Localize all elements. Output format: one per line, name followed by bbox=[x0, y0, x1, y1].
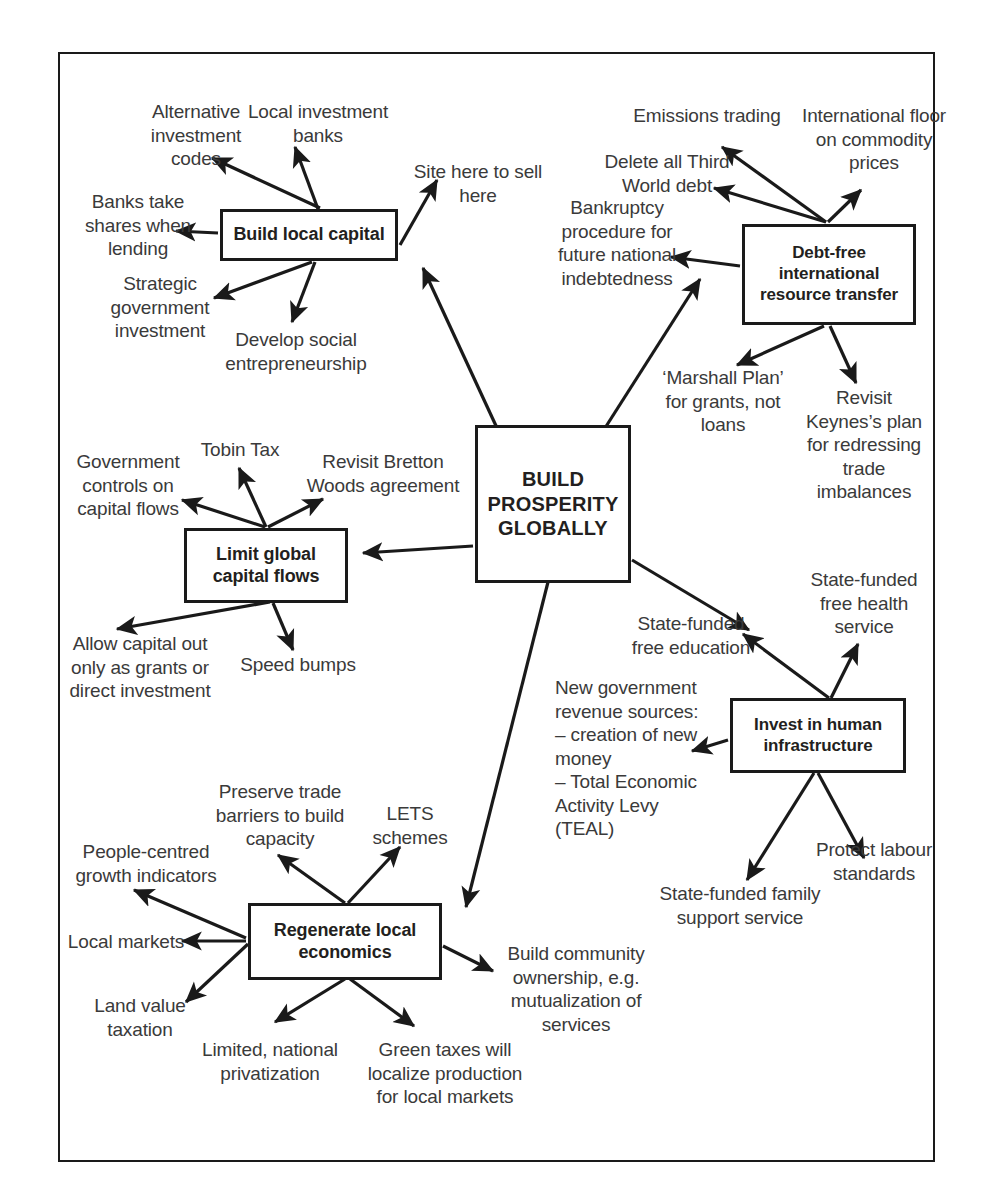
node-build-local-capital[interactable]: Build local capital bbox=[220, 209, 398, 261]
leaf-state-funded-free-education: State-funded free education bbox=[617, 612, 765, 659]
node-invest-in-human-infrastructure[interactable]: Invest in human infrastructure bbox=[730, 698, 906, 773]
leaf-state-funded-family-support-service: State-funded family support service bbox=[642, 882, 838, 929]
node-build-local-capital-label: Build local capital bbox=[233, 224, 384, 246]
node-invest-human-label: Invest in human infrastructure bbox=[754, 715, 882, 756]
leaf-marshall-plan-for-grants-not-loans: ‘Marshall Plan’ for grants, not loans bbox=[655, 366, 791, 437]
leaf-people-centred-growth-indicators: People-centred growth indicators bbox=[62, 840, 230, 887]
node-center-label: BUILD PROSPERITY GLOBALLY bbox=[488, 467, 619, 540]
leaf-site-here-to-sell-here: Site here to sell here bbox=[404, 160, 552, 207]
leaf-develop-social-entrepreneurship: Develop social entrepreneurship bbox=[208, 328, 384, 375]
leaf-land-value-taxation: Land value taxation bbox=[82, 994, 198, 1041]
leaf-speed-bumps: Speed bumps bbox=[228, 653, 368, 677]
leaf-protect-labour-standards: Protect labour standards bbox=[806, 838, 942, 885]
diagram-page: BUILD PROSPERITY GLOBALLY Build local ca… bbox=[0, 0, 987, 1203]
node-limit-global-capital-flows[interactable]: Limit global capital flows bbox=[184, 528, 348, 603]
leaf-new-government-revenue-sources: New government revenue sources: – creati… bbox=[555, 676, 727, 841]
leaf-build-community-ownership: Build community ownership, e.g. mutualiz… bbox=[494, 942, 658, 1036]
node-limit-global-label: Limit global capital flows bbox=[213, 544, 320, 588]
node-build-prosperity-globally[interactable]: BUILD PROSPERITY GLOBALLY bbox=[475, 425, 631, 583]
node-regenerate-local-label: Regenerate local economics bbox=[274, 920, 416, 964]
leaf-local-investment-banks: Local investment banks bbox=[233, 100, 403, 147]
leaf-state-funded-free-health-service: State-funded free health service bbox=[800, 568, 928, 639]
leaf-revisit-bretton-woods-agreement: Revisit Bretton Woods agreement bbox=[303, 450, 463, 497]
leaf-revisit-keynes-plan: Revisit Keynes’s plan for redressing tra… bbox=[802, 386, 926, 504]
node-debt-free-international-resource-transfer[interactable]: Debt-free international resource transfe… bbox=[742, 224, 916, 325]
leaf-banks-take-shares-when-lending: Banks take shares when lending bbox=[72, 190, 204, 261]
node-regenerate-local-economics[interactable]: Regenerate local economics bbox=[248, 903, 442, 980]
leaf-strategic-government-investment: Strategic government investment bbox=[97, 272, 223, 343]
leaf-allow-capital-out: Allow capital out only as grants or dire… bbox=[58, 632, 222, 703]
leaf-local-markets: Local markets bbox=[66, 930, 186, 954]
leaf-emissions-trading: Emissions trading bbox=[620, 104, 794, 128]
leaf-international-floor-commodity-prices: International floor on commodity prices bbox=[800, 104, 948, 175]
node-debt-free-label: Debt-free international resource transfe… bbox=[760, 243, 898, 305]
leaf-green-taxes-localize-production: Green taxes will localize production for… bbox=[359, 1038, 531, 1109]
leaf-delete-all-third-world-debt: Delete all Third World debt bbox=[592, 150, 742, 197]
leaf-limited-national-privatization: Limited, national privatization bbox=[188, 1038, 352, 1085]
leaf-government-controls-on-capital-flows: Government controls on capital flows bbox=[62, 450, 194, 521]
leaf-lets-schemes: LETS schemes bbox=[360, 802, 460, 849]
leaf-bankruptcy-procedure: Bankruptcy procedure for future national… bbox=[552, 196, 682, 290]
